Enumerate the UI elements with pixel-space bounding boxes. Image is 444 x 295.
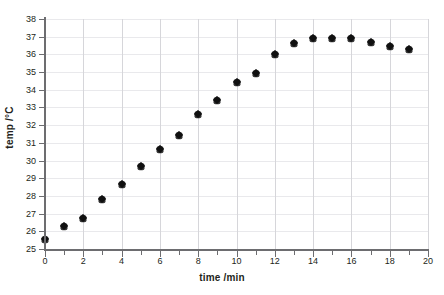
data-point	[175, 131, 183, 139]
y-tick-label: 26	[16, 227, 36, 236]
y-tick-label: 37	[16, 33, 36, 42]
chart-container: 2526272829303132333435363738 02468101214…	[0, 0, 444, 295]
gridline-vertical	[237, 19, 238, 249]
y-tick	[39, 196, 44, 197]
y-tick	[39, 72, 44, 73]
y-tick-label: 38	[16, 15, 36, 24]
x-axis-title: time /min	[0, 272, 444, 283]
y-axis-tick-labels: 2526272829303132333435363738	[14, 0, 36, 295]
x-tick-label: 4	[112, 256, 132, 266]
y-axis-title: temp /°C	[4, 88, 15, 168]
x-tick-label: 16	[341, 256, 361, 266]
gridline-vertical	[351, 19, 352, 249]
data-point	[385, 41, 393, 49]
chart-title-cropped	[0, 0, 444, 7]
y-tick-label: 28	[16, 192, 36, 201]
gridline-vertical	[390, 19, 391, 249]
data-point	[60, 222, 68, 230]
gridline-vertical	[428, 19, 429, 249]
x-tick-label: 18	[380, 256, 400, 266]
x-tick-label: 14	[303, 256, 323, 266]
plot-area	[45, 19, 428, 249]
x-tick	[217, 251, 218, 255]
data-point	[79, 214, 87, 222]
data-point	[251, 69, 259, 77]
y-tick	[39, 231, 44, 232]
x-tick-label: 12	[265, 256, 285, 266]
x-tick-label: 10	[227, 256, 247, 266]
y-tick-label: 36	[16, 50, 36, 59]
y-tick	[39, 90, 44, 91]
data-point	[309, 33, 317, 41]
gridline-vertical	[198, 19, 199, 249]
y-tick-label: 32	[16, 121, 36, 130]
x-tick	[371, 251, 372, 255]
data-point	[194, 109, 202, 117]
x-tick	[332, 251, 333, 255]
y-tick	[39, 107, 44, 108]
data-point	[271, 50, 279, 58]
y-axis-line	[44, 17, 46, 251]
y-tick	[39, 249, 44, 250]
y-tick-label: 30	[16, 157, 36, 166]
x-tick-label: 20	[418, 256, 438, 266]
x-tick	[64, 251, 65, 255]
y-tick	[39, 125, 44, 126]
x-tick	[102, 251, 103, 255]
x-tick	[256, 251, 257, 255]
y-tick	[39, 19, 44, 20]
x-tick	[409, 251, 410, 255]
data-point	[156, 145, 164, 153]
data-point	[117, 180, 125, 188]
data-point	[213, 95, 221, 103]
gridline-vertical	[122, 19, 123, 249]
y-tick	[39, 214, 44, 215]
y-tick-label: 25	[16, 245, 36, 254]
x-tick-label: 8	[188, 256, 208, 266]
y-tick-label: 35	[16, 68, 36, 77]
data-point	[137, 162, 145, 170]
x-tick	[294, 251, 295, 255]
y-tick	[39, 37, 44, 38]
gridline-vertical	[160, 19, 161, 249]
data-point	[328, 33, 336, 41]
y-tick-label: 33	[16, 103, 36, 112]
y-tick	[39, 178, 44, 179]
data-point	[290, 39, 298, 47]
y-tick	[39, 161, 44, 162]
x-tick	[141, 251, 142, 255]
x-tick-label: 0	[35, 256, 55, 266]
data-point	[347, 33, 355, 41]
x-tick	[179, 251, 180, 255]
data-point	[232, 78, 240, 86]
x-tick-label: 2	[73, 256, 93, 266]
data-point	[366, 38, 374, 46]
x-tick-label: 6	[150, 256, 170, 266]
y-tick	[39, 143, 44, 144]
y-tick-label: 29	[16, 174, 36, 183]
y-tick-label: 34	[16, 86, 36, 95]
y-tick-label: 31	[16, 139, 36, 148]
data-point	[405, 45, 413, 53]
y-tick-label: 27	[16, 210, 36, 219]
y-tick	[39, 54, 44, 55]
gridline-vertical	[313, 19, 314, 249]
